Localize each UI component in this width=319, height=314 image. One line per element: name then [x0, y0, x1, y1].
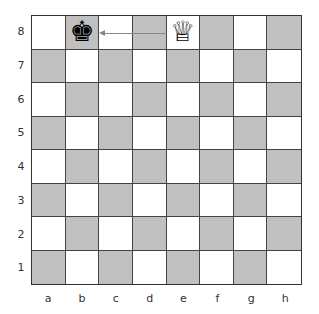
- square-d2[interactable]: [133, 217, 167, 251]
- square-h8[interactable]: [267, 16, 301, 50]
- square-b5[interactable]: [66, 117, 100, 151]
- square-f2[interactable]: [200, 217, 234, 251]
- file-label-c: c: [99, 292, 133, 305]
- square-e3[interactable]: [167, 184, 201, 218]
- square-a8[interactable]: [32, 16, 66, 50]
- square-e1[interactable]: [167, 251, 201, 285]
- square-a6[interactable]: [32, 83, 66, 117]
- square-a1[interactable]: [32, 251, 66, 285]
- rank-label-4: 4: [14, 160, 28, 173]
- rank-label-3: 3: [14, 194, 28, 207]
- file-label-h: h: [268, 292, 302, 305]
- square-f5[interactable]: [200, 117, 234, 151]
- square-b6[interactable]: [66, 83, 100, 117]
- square-e4[interactable]: [167, 150, 201, 184]
- square-f8[interactable]: [200, 16, 234, 50]
- square-g3[interactable]: [234, 184, 268, 218]
- square-a3[interactable]: [32, 184, 66, 218]
- square-g4[interactable]: [234, 150, 268, 184]
- rank-label-6: 6: [14, 93, 28, 106]
- square-h7[interactable]: [267, 50, 301, 84]
- file-label-f: f: [200, 292, 234, 305]
- square-g2[interactable]: [234, 217, 268, 251]
- square-g5[interactable]: [234, 117, 268, 151]
- square-a4[interactable]: [32, 150, 66, 184]
- square-f7[interactable]: [200, 50, 234, 84]
- square-h6[interactable]: [267, 83, 301, 117]
- square-c6[interactable]: [99, 83, 133, 117]
- square-f4[interactable]: [200, 150, 234, 184]
- square-h5[interactable]: [267, 117, 301, 151]
- chess-board: ♚♕: [31, 15, 302, 285]
- square-d4[interactable]: [133, 150, 167, 184]
- square-b3[interactable]: [66, 184, 100, 218]
- square-a2[interactable]: [32, 217, 66, 251]
- square-d1[interactable]: [133, 251, 167, 285]
- square-b2[interactable]: [66, 217, 100, 251]
- rank-label-2: 2: [14, 228, 28, 241]
- square-a5[interactable]: [32, 117, 66, 151]
- square-a7[interactable]: [32, 50, 66, 84]
- square-b4[interactable]: [66, 150, 100, 184]
- rank-label-7: 7: [14, 59, 28, 72]
- square-c7[interactable]: [99, 50, 133, 84]
- square-c3[interactable]: [99, 184, 133, 218]
- square-c1[interactable]: [99, 251, 133, 285]
- square-h1[interactable]: [267, 251, 301, 285]
- file-label-b: b: [65, 292, 99, 305]
- square-g8[interactable]: [234, 16, 268, 50]
- rank-label-1: 1: [14, 261, 28, 274]
- square-d5[interactable]: [133, 117, 167, 151]
- square-d3[interactable]: [133, 184, 167, 218]
- square-f1[interactable]: [200, 251, 234, 285]
- square-b1[interactable]: [66, 251, 100, 285]
- square-d7[interactable]: [133, 50, 167, 84]
- square-b8[interactable]: ♚: [66, 16, 100, 50]
- square-c5[interactable]: [99, 117, 133, 151]
- rank-label-5: 5: [14, 126, 28, 139]
- file-label-a: a: [31, 292, 65, 305]
- square-d6[interactable]: [133, 83, 167, 117]
- square-b7[interactable]: [66, 50, 100, 84]
- square-e8[interactable]: ♕: [167, 16, 201, 50]
- square-h3[interactable]: [267, 184, 301, 218]
- square-e5[interactable]: [167, 117, 201, 151]
- square-g1[interactable]: [234, 251, 268, 285]
- square-e6[interactable]: [167, 83, 201, 117]
- file-label-g: g: [234, 292, 268, 305]
- square-h2[interactable]: [267, 217, 301, 251]
- white-queen-icon[interactable]: ♕: [170, 18, 195, 46]
- file-label-d: d: [133, 292, 167, 305]
- rank-label-8: 8: [14, 25, 28, 38]
- square-e2[interactable]: [167, 217, 201, 251]
- file-label-e: e: [167, 292, 201, 305]
- arrow-head-icon: [99, 30, 105, 36]
- square-e7[interactable]: [167, 50, 201, 84]
- square-h4[interactable]: [267, 150, 301, 184]
- square-g7[interactable]: [234, 50, 268, 84]
- square-g6[interactable]: [234, 83, 268, 117]
- square-f3[interactable]: [200, 184, 234, 218]
- square-c2[interactable]: [99, 217, 133, 251]
- square-c4[interactable]: [99, 150, 133, 184]
- square-f6[interactable]: [200, 83, 234, 117]
- move-arrow: [105, 33, 167, 34]
- black-king-icon[interactable]: ♚: [69, 18, 94, 46]
